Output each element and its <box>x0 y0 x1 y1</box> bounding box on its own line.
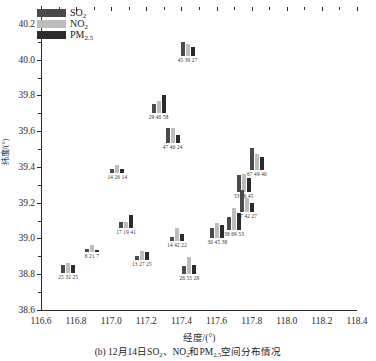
legend-item-so2: SO2 <box>37 7 109 18</box>
y-tick-minor <box>38 113 41 114</box>
data-point-label: 29 40 58 <box>149 114 169 120</box>
x-tick-label: 116.8 <box>66 316 87 326</box>
bar-so2 <box>170 237 174 241</box>
y-tick-label: 38.6 <box>18 305 35 315</box>
data-point-group: 26 55 28 <box>182 252 196 274</box>
x-tick-minor <box>269 7 270 10</box>
data-point-group: 30 45 38 <box>210 216 224 238</box>
x-tick-mark <box>217 7 218 11</box>
data-point-label: 47 46 24 <box>163 144 183 150</box>
bar-no2 <box>124 222 128 228</box>
data-point-group: 8 21 7 <box>85 230 99 252</box>
y-tick-mark <box>37 238 41 239</box>
bar-so2 <box>181 42 185 56</box>
data-point-label: 30 45 38 <box>208 239 228 245</box>
x-tick-label: 117.8 <box>241 316 262 326</box>
bar-pm25 <box>192 265 196 274</box>
data-point-bars <box>166 121 180 143</box>
y-tick-mark <box>37 274 41 275</box>
data-point-bars <box>135 238 149 260</box>
bar-so2 <box>240 190 244 211</box>
bar-pm25 <box>250 203 254 212</box>
x-axis-line <box>41 310 357 311</box>
y-tick-label: 40.2 <box>18 19 35 29</box>
x-tick-label: 116.6 <box>30 316 51 326</box>
data-point-bars <box>181 34 195 56</box>
y-axis-line <box>41 6 42 310</box>
data-point-label: 17 19 41 <box>116 229 136 235</box>
x-axis-title: 经度/(°) <box>183 330 216 344</box>
data-point-group: 14 26 14 <box>110 151 124 173</box>
legend-label-subscript: 2 <box>84 23 88 31</box>
data-point-bars <box>240 190 254 212</box>
legend-label: SO2 <box>70 8 86 18</box>
bar-so2 <box>135 256 139 260</box>
data-point-label: 8 21 7 <box>85 253 99 259</box>
legend-label-subscript: 2 <box>83 12 87 20</box>
data-point-group: 29 40 58 <box>152 91 166 113</box>
x-tick-label: 117.2 <box>136 316 157 326</box>
data-point-group: 25 32 25 <box>61 251 75 273</box>
y-tick-mark <box>37 95 41 96</box>
data-point-group: 13 27 25 <box>135 238 149 260</box>
data-point-group: 14 42 22 <box>170 219 184 241</box>
bar-pm25 <box>260 157 264 170</box>
x-tick-mark <box>181 7 182 11</box>
x-tick-minor <box>129 7 130 10</box>
data-point-group: 17 19 41 <box>119 206 133 228</box>
caption-so2-sub: 2 <box>159 351 162 358</box>
caption-suffix: 和PM <box>189 347 213 357</box>
bar-so2 <box>182 266 186 274</box>
legend-swatch-pm <box>37 31 66 39</box>
data-point-bars <box>152 91 166 113</box>
bar-pm25 <box>145 252 149 260</box>
data-point-bars <box>61 251 75 273</box>
y-tick-mark <box>37 203 41 204</box>
bar-so2 <box>119 222 123 227</box>
bar-so2 <box>85 249 89 252</box>
x-tick-label: 118.4 <box>346 316 367 326</box>
data-point-group: 67 42 27 <box>240 190 254 212</box>
y-tick-minor <box>38 292 41 293</box>
bar-no2 <box>157 101 161 114</box>
bar-pm25 <box>191 47 195 56</box>
y-tick-label: 39.2 <box>18 198 35 208</box>
x-tick-label: 117.6 <box>206 316 227 326</box>
caption-tail: 空间分布情况 <box>221 347 281 357</box>
y-axis-title: 纬度/(°) <box>0 139 10 166</box>
data-point-bars <box>85 230 99 252</box>
data-point-label: 14 26 14 <box>107 174 127 180</box>
data-point-bars <box>119 206 133 228</box>
x-tick-label: 118.2 <box>311 316 332 326</box>
x-tick-mark <box>357 7 358 11</box>
data-point-bars <box>210 216 224 238</box>
figure-caption: (b) 12月14日SO2、NO2和PM2.5空间分布情况 <box>95 344 282 358</box>
chart-figure: 38.638.839.039.239.439.639.840.040.2 116… <box>0 0 376 361</box>
x-tick-label: 117.4 <box>171 316 192 326</box>
data-point-label: 14 42 22 <box>167 242 187 248</box>
data-point-label: 45 39 27 <box>178 57 198 63</box>
bar-no2 <box>232 208 236 230</box>
y-tick-minor <box>38 149 41 150</box>
data-point-bars <box>170 219 184 241</box>
plot-area: 38.638.839.039.239.439.639.840.040.2 116… <box>41 6 357 310</box>
y-tick-minor <box>38 78 41 79</box>
bar-so2 <box>227 217 231 229</box>
x-tick-mark <box>252 7 253 11</box>
data-point-bars <box>182 252 196 274</box>
legend-label: PM2.5 <box>70 30 93 40</box>
y-tick-label: 40.0 <box>18 55 35 65</box>
caption-prefix: (b) 12月14日SO <box>95 347 160 357</box>
bar-no2 <box>115 165 119 173</box>
bar-so2 <box>250 148 254 169</box>
legend-item-no2: NO2 <box>37 18 109 29</box>
data-point-group: 45 39 27 <box>181 34 195 56</box>
x-tick-minor <box>164 7 165 10</box>
legend-label-subscript: 2.5 <box>84 34 93 42</box>
bar-no2 <box>66 263 70 273</box>
legend-item-pm25: PM2.5 <box>37 29 109 40</box>
bar-no2 <box>255 154 259 170</box>
bar-no2 <box>175 228 179 241</box>
bar-no2 <box>187 257 191 275</box>
y-tick-mark <box>37 167 41 168</box>
